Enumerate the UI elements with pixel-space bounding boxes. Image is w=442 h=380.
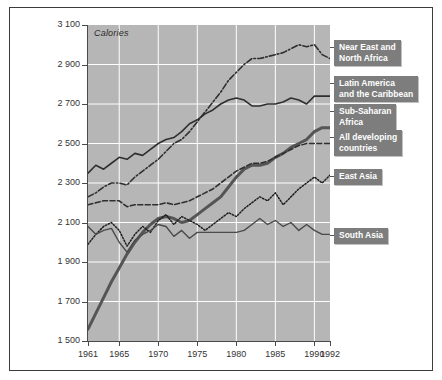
y-axis-line: [87, 25, 88, 342]
legend-label-1[interactable]: Near East and North Africa: [334, 40, 401, 66]
y-tick-label: 1 900: [57, 256, 80, 266]
y-tick-label: 2 300: [57, 177, 80, 187]
y-tick-label: 1 500: [57, 335, 80, 345]
legend-label-3[interactable]: Sub-Saharan Africa: [334, 104, 396, 130]
y-tick: [82, 223, 87, 224]
x-tick: [236, 341, 237, 346]
x-tick: [119, 341, 120, 346]
y-tick: [82, 104, 87, 105]
series-line: [88, 175, 330, 246]
legend-leader-line: [330, 137, 334, 138]
x-tick-label: 1980: [226, 349, 246, 359]
x-tick: [314, 341, 315, 346]
y-tick: [82, 25, 87, 26]
x-tick-label: 1975: [187, 349, 207, 359]
unit-label: Calories: [94, 28, 129, 38]
x-tick-label: 1985: [265, 349, 285, 359]
x-tick-label: 1970: [148, 349, 168, 359]
x-axis-line: [87, 341, 331, 342]
y-tick-label: 2 500: [57, 138, 80, 148]
y-tick-label: 3 100: [57, 19, 80, 29]
y-tick: [82, 341, 87, 342]
x-tick-label: 1961: [78, 349, 98, 359]
y-tick-label: 2 900: [57, 59, 80, 69]
x-tick: [197, 341, 198, 346]
y-tick-label: 2 700: [57, 98, 80, 108]
y-tick: [82, 302, 87, 303]
y-tick: [82, 183, 87, 184]
x-tick-label: 1992: [320, 349, 340, 359]
x-tick: [88, 341, 89, 346]
legend-label-6[interactable]: South Asia: [334, 228, 388, 244]
legend-leader-line: [330, 47, 334, 48]
series-line: [88, 144, 330, 207]
legend-label-2[interactable]: Latin America and the Caribbean: [334, 76, 418, 102]
y-tick-label: 2 100: [57, 217, 80, 227]
top-text-fragment: [0, 0, 442, 6]
legend-label-4[interactable]: All developing countries: [334, 130, 402, 156]
legend-leader-line: [330, 176, 334, 177]
y-tick-label: 1 700: [57, 296, 80, 306]
plot-area: [88, 25, 330, 341]
y-tick: [82, 144, 87, 145]
legend-label-5[interactable]: East Asia: [334, 169, 382, 185]
series-line: [88, 45, 330, 197]
legend-leader-line: [330, 235, 334, 236]
legend-leader-line: [330, 111, 334, 112]
plot-svg: [88, 25, 330, 341]
legend-leader-line: [330, 83, 334, 84]
x-tick-label: 1965: [109, 349, 129, 359]
x-tick: [330, 341, 331, 346]
x-tick: [275, 341, 276, 346]
chart-screenshot: Calories 3 1002 9002 7002 5002 3002 1001…: [0, 0, 442, 380]
y-tick: [82, 262, 87, 263]
series-line: [88, 219, 330, 253]
y-tick: [82, 65, 87, 66]
x-tick: [158, 341, 159, 346]
